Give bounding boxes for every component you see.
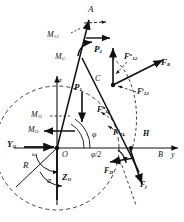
axis-label-z: z (59, 76, 62, 84)
MO-sub: O (35, 129, 39, 134)
moment-label-MC: MC (55, 52, 65, 61)
moment-label-MO: MO (28, 125, 38, 134)
M11-sub: 11 (38, 114, 43, 119)
link-OA (57, 20, 89, 148)
point-label-O: O (62, 150, 68, 159)
joint-H-dot (129, 146, 133, 150)
P2-sub: 2 (100, 49, 103, 54)
force-Fj-arrow (130, 149, 142, 184)
force-FR-arrow (113, 60, 163, 85)
reaction-label-ZO: ZO (62, 172, 71, 182)
force-label-F12n: Fn12 (124, 52, 137, 61)
F12t-sub: 12 (144, 91, 149, 96)
joint-C-dot (111, 83, 115, 87)
force-F12n-pointer (116, 62, 127, 74)
force-label-F12t: Ft12 (137, 87, 149, 96)
force-FH-arrow (110, 158, 134, 162)
F12n-sub: 12 (132, 56, 137, 61)
load-label-P1: P1 (74, 82, 82, 92)
force-label-FH: FH (104, 166, 113, 175)
M12-sub: 12 (54, 34, 59, 39)
moment-M12-leader (71, 28, 81, 33)
joint-O-dot (55, 146, 59, 150)
angle-label-phi: φ (92, 130, 96, 139)
reaction-label-YO: YO (7, 139, 16, 149)
P1-sub: 1 (80, 87, 83, 92)
angle-phi-arc-inner (71, 124, 84, 148)
moment-label-M12: M12 (47, 30, 59, 39)
F11n-sub: 11 (105, 109, 110, 114)
FR-sub: R (167, 62, 170, 67)
force-label-FR: FR (161, 57, 170, 67)
moment-label-M11: M11 (31, 110, 42, 119)
load-label-P2: P2 (94, 44, 102, 54)
Fj-sub: j (145, 184, 146, 189)
point-label-B: B (158, 150, 163, 159)
point-label-H: H (143, 129, 149, 138)
YO-sub: O (13, 144, 17, 149)
dashed-arc-secondary (112, 58, 137, 152)
MC-sub: C (62, 56, 65, 61)
axis-label-y: y (171, 150, 175, 159)
force-label-Fj: Fj (140, 180, 147, 189)
angle-label-omega: ω (32, 150, 37, 158)
diagram-canvas (0, 0, 184, 222)
angle-label-alpha: α (47, 176, 51, 185)
M11-letter: M (31, 110, 38, 119)
point-label-A: A (88, 4, 94, 14)
force-diagram: A C H B O y z YO ZO M12 MC M11 MO P1 P2 … (0, 0, 184, 222)
F11t-sub: 11 (120, 132, 125, 137)
dashed-guide-lower-right (120, 160, 136, 205)
MC-letter: M (55, 52, 62, 61)
angle-label-phi-half: φ/2 (91, 150, 101, 159)
force-label-F11t: Ft11 (113, 128, 124, 137)
FH-sub: H (109, 170, 113, 175)
MO-letter: M (28, 125, 35, 134)
radius-label-R: R (23, 160, 29, 170)
moment-M12-arrow (84, 22, 106, 23)
ZO-sub: O (68, 177, 72, 182)
point-label-C: C (95, 74, 100, 83)
force-label-F11n: Fn11 (97, 105, 110, 114)
angle-phi-arc (75, 119, 90, 148)
M12-letter: M (47, 30, 54, 39)
